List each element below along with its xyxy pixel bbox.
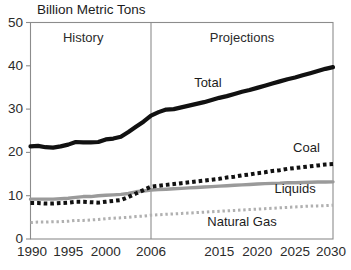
- x-tick-label-2020: 2020: [242, 244, 272, 259]
- chart-background: [0, 0, 351, 270]
- y-tick-label-30: 30: [8, 101, 23, 116]
- chart-canvas: Billion Metric Tons 01020304050 19901995…: [0, 0, 351, 270]
- x-tick-label-2030: 2030: [316, 244, 346, 259]
- annotation-total: Total: [194, 75, 222, 90]
- x-tick-label-2015: 2015: [204, 244, 234, 259]
- annotation-liquids: Liquids: [274, 181, 316, 196]
- y-tick-label-40: 40: [8, 58, 23, 73]
- y-tick-label-20: 20: [8, 144, 23, 159]
- annotation-natural-gas: Natural Gas: [207, 214, 277, 229]
- annotation-coal: Coal: [293, 140, 320, 155]
- emissions-chart: Billion Metric Tons 01020304050 19901995…: [0, 0, 351, 270]
- x-tick-label-1995: 1995: [53, 244, 83, 259]
- chart-title: Billion Metric Tons: [37, 2, 146, 17]
- y-tick-label-50: 50: [8, 15, 23, 30]
- x-tick-label-2006: 2006: [136, 244, 166, 259]
- x-tick-label-2000: 2000: [91, 244, 121, 259]
- x-tick-label-2025: 2025: [280, 244, 310, 259]
- x-tick-label-1990: 1990: [17, 244, 47, 259]
- annotation-projections: Projections: [210, 30, 275, 45]
- chart-title-group: Billion Metric Tons: [37, 2, 146, 17]
- y-tick-label-10: 10: [8, 188, 23, 203]
- annotation-history: History: [63, 30, 104, 45]
